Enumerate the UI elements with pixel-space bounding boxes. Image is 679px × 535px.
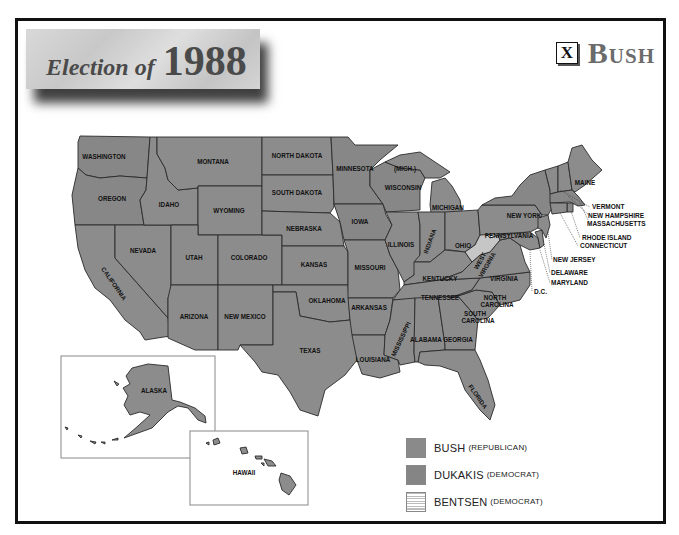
legend-label-dukakis: DUKAKIS [434,469,484,481]
label-ohio: OHIO [455,242,471,249]
state-pennsylvania[interactable] [478,205,542,235]
label-georgia: GEORGIA [443,336,473,343]
label-iowa: IOWA [352,218,369,225]
label-arizona: ARIZONA [180,313,209,320]
label-kansas: KANSAS [301,261,328,268]
label-alaska: ALASKA [141,387,168,394]
label-new-jersey: NEW JERSEY [553,256,596,263]
label-wyoming: WYOMING [213,207,245,214]
label-dc: D.C. [534,288,547,295]
label-pennsylvania: PENNSYLVANIA [485,232,534,239]
state-connecticut[interactable] [550,203,567,214]
legend-label-bush: BUSH [434,442,465,454]
leader-delaware [544,244,550,273]
label-kentucky: KENTUCKY [423,275,459,282]
label-maryland: MARYLAND [551,279,588,286]
label-oregon: OREGON [98,195,126,202]
legend-label-bentsen: BENTSEN [434,496,487,508]
legend-party-bentsen: (DEMOCRAT) [490,497,543,506]
label-oklahoma: OKLAHOMA [308,297,346,304]
label-colorado: COLORADO [231,254,268,261]
legend-item-bush: BUSH (REPUBLICAN) [406,434,543,461]
label-illinois: ILLINOIS [388,241,415,248]
label-louisiana: LOUISIANA [356,356,391,363]
label-minnesota: MINNESOTA [336,165,374,172]
label-massachusetts: MASSACHUSETTS [587,220,646,227]
label-hawaii: HAWAII [233,469,256,476]
legend: BUSH (REPUBLICAN) DUKAKIS (DEMOCRAT) BEN… [406,434,543,515]
legend-party-dukakis: (DEMOCRAT) [487,470,540,479]
legend-item-bentsen: BENTSEN (DEMOCRAT) [406,488,543,515]
label-missouri: MISSOURI [354,264,385,271]
label-south-carolina-1: SOUTH [464,310,486,317]
label-south-carolina-2: CAROLINA [461,317,495,324]
label-arkansas: ARKANSAS [351,304,387,311]
leader-connecticut [560,213,578,246]
swatch-bush [406,438,426,458]
label-delaware: DELAWARE [551,269,589,276]
leader-rhode-island [571,211,580,238]
label-michigan-up: (MICH.) [394,165,416,173]
us-election-map: WASHINGTON OREGON CALIFORNIA NEVADA IDAH… [0,0,679,535]
label-new-mexico: NEW MEXICO [224,313,265,320]
label-connecticut: CONNECTICUT [580,242,627,249]
label-washington: WASHINGTON [82,153,126,160]
label-north-dakota: NORTH DAKOTA [272,152,323,159]
swatch-dukakis [406,465,426,485]
label-utah: UTAH [185,254,202,261]
legend-item-dukakis: DUKAKIS (DEMOCRAT) [406,461,543,488]
label-nebraska: NEBRASKA [286,225,322,232]
legend-party-bush: (REPUBLICAN) [468,443,527,452]
leader-new-jersey [548,232,552,260]
label-virginia: VIRGINIA [490,275,518,282]
label-new-york: NEW YORK [507,212,542,219]
label-nevada: NEVADA [130,247,157,254]
label-idaho: IDAHO [159,201,179,208]
state-rhode-island[interactable] [567,203,573,212]
label-texas: TEXAS [300,347,321,354]
label-montana: MONTANA [197,158,229,165]
label-michigan: MICHIGAN [432,204,464,211]
label-alabama: ALABAMA [410,336,442,343]
label-rhode-island: RHODE ISLAND [582,234,632,241]
label-maine: MAINE [575,179,595,186]
swatch-bentsen [406,492,426,512]
label-wisconsin: WISCONSIN [385,184,422,191]
label-new-hampshire: NEW HAMPSHIRE [588,212,645,219]
label-vermont: VERMONT [592,203,625,210]
label-north-carolina-2: CAROLINA [480,301,514,308]
label-south-dakota: SOUTH DAKOTA [272,189,323,196]
label-north-carolina-1: NORTH [484,294,507,301]
label-tennessee: TENNESSEE [421,294,459,301]
